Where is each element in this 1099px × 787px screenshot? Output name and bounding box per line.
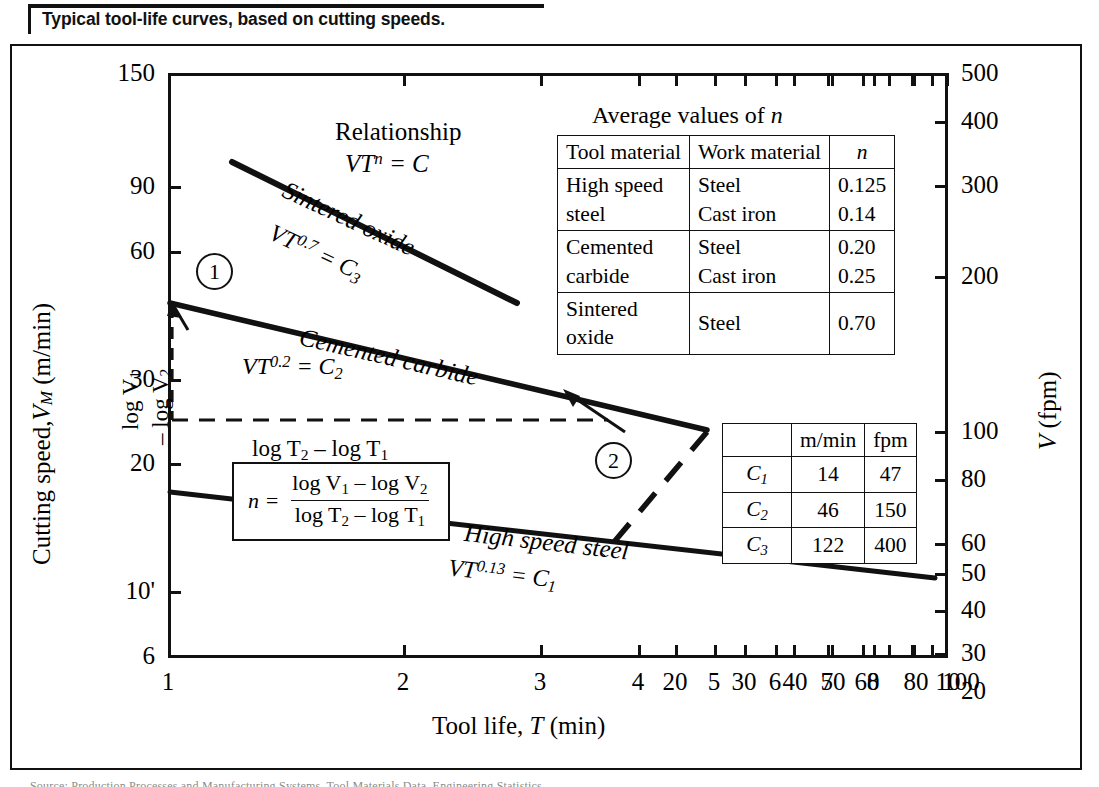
n-row2-tool-line1: Cemented [566, 233, 681, 261]
formula-num-a: log V [292, 470, 341, 495]
xlabel-40: 40 [783, 669, 808, 694]
xlabel-2: 2 [397, 669, 410, 694]
n-row1-n-line1: 0.125 [838, 171, 886, 199]
xtick-bottom-40 [793, 645, 796, 658]
source-note-clipped: Source: Production Processes and Manufac… [30, 780, 1010, 787]
c-values-table: m/min fpm C1 14 47 C2 46 150 C3 122 400 [722, 423, 917, 564]
n-table-title: Average values of n [592, 102, 783, 129]
c-row3-mmin: 122 [792, 528, 865, 563]
xtick-top-60 [862, 73, 865, 86]
xtick-bottom-50 [831, 645, 834, 658]
x-axis-var: T [530, 712, 544, 739]
formula-num-op: – log V [349, 470, 420, 495]
n-row2-n: 0.20 0.25 [829, 231, 894, 293]
ylabel-right-300: 300 [961, 172, 999, 197]
carbide-eq-lead: VT [242, 353, 270, 379]
caption-left-tick [28, 8, 31, 34]
table-row: C2 46 150 [723, 492, 917, 527]
n-row3-work: Steel [689, 292, 829, 354]
hss-eq-tail: = C [509, 561, 550, 591]
formula-fraction: log V1 – log V2 log T2 – log T1 [288, 470, 431, 531]
n-row1-work-line2: Cast iron [698, 200, 821, 228]
ylabel-left-20: 20 [130, 450, 155, 475]
xlabel-80: 80 [904, 669, 929, 694]
n-table-header-n: n [829, 136, 894, 169]
xtick-bottom-60 [862, 645, 865, 658]
ylabel-left-6: 6 [143, 643, 156, 668]
n-row3-tool-line2: oxide [566, 323, 681, 351]
c-row1-label: C1 [723, 457, 792, 492]
formula-denominator: log T2 – log T1 [291, 500, 429, 531]
xtick-top-70 [888, 73, 891, 86]
c-table-header-fpm: fpm [865, 424, 917, 457]
n-row1-n: 0.125 0.14 [829, 169, 894, 231]
ylabel-right-50: 50 [961, 560, 986, 585]
carbide-eq-tail: = C [296, 353, 334, 379]
y-axis-title-right: V (fpm) [1034, 300, 1062, 450]
relationship-equation: VTn = C [345, 149, 429, 178]
ylabel-left-60: 60 [130, 238, 155, 263]
xlabel-50: 50 [821, 669, 846, 694]
n-row1-work: Steel Cast iron [689, 169, 829, 231]
bracket-vertical-logV1: log V1 [118, 300, 144, 430]
n-table-title-var: n [771, 102, 783, 128]
table-row: High speed steel Steel Cast iron 0.125 0… [558, 169, 895, 231]
n-row2-work-line1: Steel [698, 233, 821, 261]
c-row2-label-sub: 2 [761, 507, 768, 523]
formula-den-a: log T [295, 502, 342, 527]
formula-lhs: n = [248, 488, 279, 514]
c-table-header-mmin: m/min [792, 424, 865, 457]
xtick-bottom-90 [931, 645, 934, 658]
ylabel-right-60: 60 [961, 530, 986, 555]
xlabel-3: 3 [534, 669, 547, 694]
ylabel-right-500: 500 [961, 60, 999, 85]
xlabel-4: 4 [632, 669, 645, 694]
formula-numerator: log V1 – log V2 [288, 470, 431, 500]
callout-marker-1[interactable]: 1 [196, 253, 233, 290]
c-row2-label: C2 [723, 492, 792, 527]
figure-caption: Typical tool-life curves, based on cutti… [42, 9, 445, 30]
xlabel-30: 30 [732, 669, 757, 694]
xlabel-100: 100 [942, 669, 980, 694]
c-row1-fpm: 47 [865, 457, 917, 492]
c-table-header-blank [723, 424, 792, 457]
n-row2-n-line1: 0.20 [838, 233, 886, 261]
xtick-top-20 [675, 73, 678, 86]
n-row1-tool-line2: steel [566, 200, 681, 228]
n-row3-work-line1: Steel [698, 309, 821, 337]
hss-eq-lead: VT [447, 554, 478, 583]
bracket-horizontal-logT: log T2 – log T1 [252, 436, 388, 464]
ylabel-left-150: 150 [118, 60, 156, 85]
ylabel-right-40: 40 [961, 597, 986, 622]
x-axis-title: Tool life, T (min) [432, 712, 605, 740]
ylabel-right-80: 80 [961, 466, 986, 491]
relationship-title: Relationship [335, 118, 461, 146]
carbide-eq-sub: 2 [335, 364, 343, 383]
xtick-top-80 [911, 73, 914, 86]
n-row3-tool: Sintered oxide [558, 292, 690, 354]
callout-marker-2[interactable]: 2 [595, 442, 632, 479]
x-axis-lead: Tool life, [432, 712, 523, 739]
n-row3-n: 0.70 [829, 292, 894, 354]
n-row2-tool-line2: carbide [566, 262, 681, 290]
n-row1-work-line1: Steel [698, 171, 821, 199]
c-row3-fpm: 400 [865, 528, 917, 563]
y-axis-left-unit: (m/min) [28, 303, 55, 391]
relationship-eq-tail: = C [389, 150, 429, 177]
n-row2-work: Steel Cast iron [689, 231, 829, 293]
n-row2-tool: Cemented carbide [558, 231, 690, 293]
c-row3-label-sub: 3 [761, 542, 768, 558]
xtick-bottom-70 [888, 645, 891, 658]
bracket-v2-lead: – log V [148, 376, 173, 445]
bracket-t-lead: log T [252, 436, 301, 461]
n-row1-n-line2: 0.14 [838, 200, 886, 228]
xtick-top-90 [931, 73, 934, 86]
xlabel-5: 5 [708, 669, 721, 694]
bracket-v1-sub: 1 [126, 371, 143, 379]
x-axis-unit: (min) [543, 712, 605, 739]
top-rule [28, 4, 544, 8]
c-row2-mmin: 46 [792, 492, 865, 527]
n-row1-tool: High speed steel [558, 169, 690, 231]
n-row2-work-line2: Cast iron [698, 262, 821, 290]
y-axis-left-var: V [28, 405, 55, 420]
